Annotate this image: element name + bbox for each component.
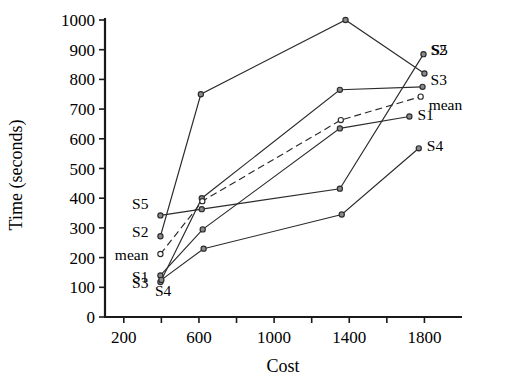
data-point-S2 [198, 92, 203, 97]
data-point-S4 [339, 212, 344, 217]
data-point-S1 [337, 126, 342, 131]
data-point-S3 [337, 87, 342, 92]
left-label-mean: mean [115, 246, 149, 263]
x-tick-label: 600 [186, 328, 212, 347]
data-point-S4 [416, 146, 421, 151]
data-point-S4 [201, 246, 206, 251]
y-tick-label: 100 [70, 278, 96, 297]
data-point-mean [200, 199, 205, 204]
left-label-S2: S2 [132, 223, 148, 240]
x-tick-label: 1000 [257, 328, 291, 347]
y-tick-label: 900 [70, 41, 96, 60]
x-tick-label: 1400 [332, 328, 366, 347]
data-point-mean [338, 117, 343, 122]
y-tick-label: 200 [70, 249, 96, 268]
data-point-S2 [343, 17, 348, 22]
data-point-mean [418, 94, 423, 99]
right-label-S5: S5 [431, 41, 448, 58]
data-point-S3 [420, 84, 425, 89]
left-label-S4: S4 [155, 282, 172, 299]
y-tick-label: 1000 [61, 11, 95, 30]
x-axis-title: Cost [266, 356, 299, 376]
data-point-S1 [407, 114, 412, 119]
x-tick-label: 1800 [407, 328, 441, 347]
data-point-S5 [158, 213, 163, 218]
line-chart: 01002003004005006007008009001000 2006001… [0, 0, 512, 391]
y-tick-label: 0 [87, 308, 96, 327]
right-label-mean: mean [429, 96, 463, 113]
data-point-S5 [337, 186, 342, 191]
data-point-mean [158, 251, 163, 256]
y-tick-label: 300 [70, 219, 96, 238]
y-tick-label: 600 [70, 130, 96, 149]
y-tick-label: 500 [70, 160, 96, 179]
y-tick-label: 700 [70, 100, 96, 119]
x-tick-label: 200 [111, 328, 137, 347]
data-point-S5 [421, 52, 426, 57]
data-point-S2 [158, 234, 163, 239]
right-label-S4: S4 [427, 137, 444, 154]
right-label-S3: S3 [431, 71, 448, 88]
y-axis-title: Time (seconds) [6, 120, 27, 231]
y-tick-label: 800 [70, 70, 96, 89]
data-point-S1 [200, 227, 205, 232]
data-point-S2 [422, 71, 427, 76]
chart-container: 01002003004005006007008009001000 2006001… [0, 0, 512, 391]
data-point-S5 [199, 207, 204, 212]
left-label-S5: S5 [132, 195, 149, 212]
left-label-S3: S3 [132, 274, 149, 291]
y-tick-label: 400 [70, 189, 96, 208]
